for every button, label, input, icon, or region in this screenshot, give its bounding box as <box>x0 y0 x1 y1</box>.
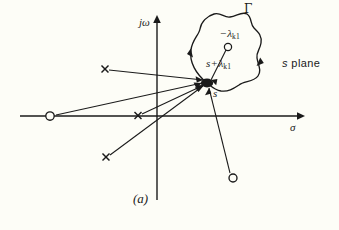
vector-from-zero-real-axis <box>56 83 202 115</box>
vector-group <box>56 50 230 173</box>
figure-canvas <box>0 0 339 230</box>
jomega-axis-arrowhead <box>153 15 161 23</box>
sigma-axis-arrowhead <box>297 112 305 120</box>
vector-from-pole-upper-left <box>109 70 203 80</box>
vector-label-operator: + <box>210 57 218 69</box>
pole-upper-left-marker <box>102 66 109 73</box>
figure-caption: (a) <box>133 192 148 205</box>
figure-s-plane-contour: Γ jω σ s plane −λk1 s+λk1 s (a) <box>0 0 339 230</box>
vector-magnitude-label: s+λk1 <box>206 58 231 70</box>
test-point-s-marker <box>201 79 213 88</box>
eigenvalue-label-minus: − <box>219 27 227 39</box>
vector-from-zero-lower-right <box>209 88 230 173</box>
contour-arrowhead-left <box>187 49 193 58</box>
zero-lower-right-marker <box>229 174 237 182</box>
contour-gamma-label: Γ <box>244 3 252 15</box>
eigenvalue-label: −λk1 <box>219 28 240 40</box>
jomega-axis-label: jω <box>139 17 150 28</box>
pole-lower-left-marker <box>103 154 110 161</box>
sigma-axis-label: σ <box>290 122 295 133</box>
s-plane-label-suffix: plane <box>288 57 320 69</box>
axis-group <box>20 15 305 200</box>
eigenvalue-label-subscript: k1 <box>232 32 240 41</box>
vector-label-subscript: k1 <box>223 62 231 71</box>
s-plane-label: s plane <box>282 58 320 69</box>
zero-real-axis-marker <box>46 112 54 120</box>
test-point-label: s <box>213 88 217 99</box>
zero-eigenvalue-marker <box>224 43 231 50</box>
